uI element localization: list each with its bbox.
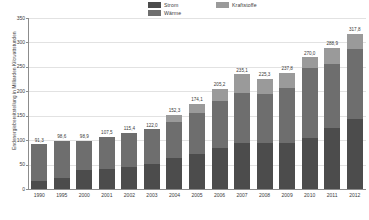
bar-stack: [347, 34, 363, 189]
bar-segment-wärme: [54, 141, 70, 178]
legend-swatch-waerme: [148, 10, 161, 16]
x-axis-line: [28, 189, 366, 190]
bar-segment-strom: [166, 158, 182, 189]
bar-segment-wärme: [76, 141, 92, 171]
bar-value-label: 237,8: [273, 66, 301, 71]
bar-stack: [234, 74, 250, 189]
y-tick-label: 150: [10, 113, 25, 118]
bar-value-label: 205,2: [206, 82, 234, 87]
bar-segment-wärme: [99, 137, 115, 170]
bar-value-label: 270,0: [296, 51, 324, 56]
x-tick-label: 2012: [339, 192, 369, 198]
bar-stack: [324, 48, 340, 189]
bar-value-label: 317,8: [341, 27, 369, 32]
bar-stack: [121, 133, 137, 189]
bar-segment-strom: [234, 143, 250, 189]
bar-stack: [76, 141, 92, 189]
y-tick-label: 350: [10, 16, 25, 21]
bar-segment-wärme: [279, 88, 295, 142]
bar-segment-strom: [76, 170, 92, 189]
bar-stack: [189, 104, 205, 189]
y-tick-label: 100: [10, 138, 25, 143]
bar-stack: [166, 115, 182, 189]
bar-segment-strom: [302, 138, 318, 189]
bar-segment-wärme: [257, 94, 273, 143]
bar-segment-wärme: [212, 101, 228, 149]
bar-segment-strom: [31, 181, 47, 190]
y-tick-mark: [26, 189, 29, 190]
bar-segment-wärme: [189, 113, 205, 154]
legend-swatch-kraftstoffe: [216, 2, 229, 8]
bar-segment-kraftstoffe: [347, 34, 363, 50]
bar-stack: [279, 73, 295, 189]
bar-segment-wärme: [234, 93, 250, 143]
bar-value-label: 174,1: [183, 97, 211, 102]
bar-segment-kraftstoffe: [234, 74, 250, 93]
y-tick-label: 200: [10, 89, 25, 94]
legend-item-waerme: Wärme: [148, 10, 181, 16]
bar-segment-strom: [54, 178, 70, 189]
bar-segment-strom: [121, 167, 137, 189]
legend-label-kraftstoffe: Kraftstoffe: [232, 2, 257, 8]
bar-segment-strom: [212, 148, 228, 189]
bar-segment-strom: [324, 128, 340, 189]
bar-segment-strom: [347, 119, 363, 189]
y-tick-label: 300: [10, 40, 25, 45]
bar-segment-kraftstoffe: [257, 79, 273, 94]
bar-value-label: 152,3: [160, 108, 188, 113]
bar-segment-kraftstoffe: [279, 73, 295, 88]
bar-segment-kraftstoffe: [302, 57, 318, 68]
bar-series-group: 91,398,698,9107,5115,4122,0152,3174,1205…: [28, 18, 366, 189]
bar-value-label: 225,3: [251, 72, 279, 77]
bar-stack: [31, 144, 47, 189]
legend-item-strom: Strom: [148, 2, 178, 8]
bar-segment-strom: [99, 169, 115, 189]
bar-segment-kraftstoffe: [212, 89, 228, 101]
bar-segment-wärme: [144, 129, 160, 164]
bar-segment-strom: [144, 164, 160, 189]
bar-stack: [212, 89, 228, 189]
bar-stack: [257, 79, 273, 189]
bar-segment-wärme: [166, 122, 182, 159]
bar-segment-strom: [189, 154, 205, 189]
bar-segment-wärme: [302, 68, 318, 138]
bar-stack: [302, 57, 318, 189]
bar-segment-kraftstoffe: [189, 104, 205, 113]
bar-segment-strom: [279, 143, 295, 189]
bar-value-label: 288,9: [318, 41, 346, 46]
bar-segment-strom: [257, 143, 273, 189]
y-tick-label: 0: [10, 187, 25, 192]
bar-stack: [99, 137, 115, 190]
bar-segment-wärme: [121, 133, 137, 167]
bar-segment-wärme: [324, 64, 340, 129]
bar-value-label: 122,0: [138, 123, 166, 128]
y-tick-label: 50: [10, 162, 25, 167]
plot-area: 050100150200250300350 91,398,698,9107,51…: [28, 18, 366, 190]
legend-label-strom: Strom: [164, 2, 178, 8]
bar-stack: [144, 129, 160, 189]
legend-swatch-strom: [148, 2, 161, 8]
bar-segment-kraftstoffe: [166, 115, 182, 122]
legend-item-kraftstoffe: Kraftstoffe: [216, 2, 257, 8]
bar-stack: [54, 141, 70, 189]
bar-segment-wärme: [31, 144, 47, 180]
bar-segment-wärme: [347, 49, 363, 119]
legend-label-waerme: Wärme: [164, 10, 181, 16]
stacked-bar-chart: Strom Wärme Kraftstoffe Endenergiebereit…: [0, 0, 369, 220]
y-tick-label: 250: [10, 64, 25, 69]
bar-segment-kraftstoffe: [324, 48, 340, 64]
